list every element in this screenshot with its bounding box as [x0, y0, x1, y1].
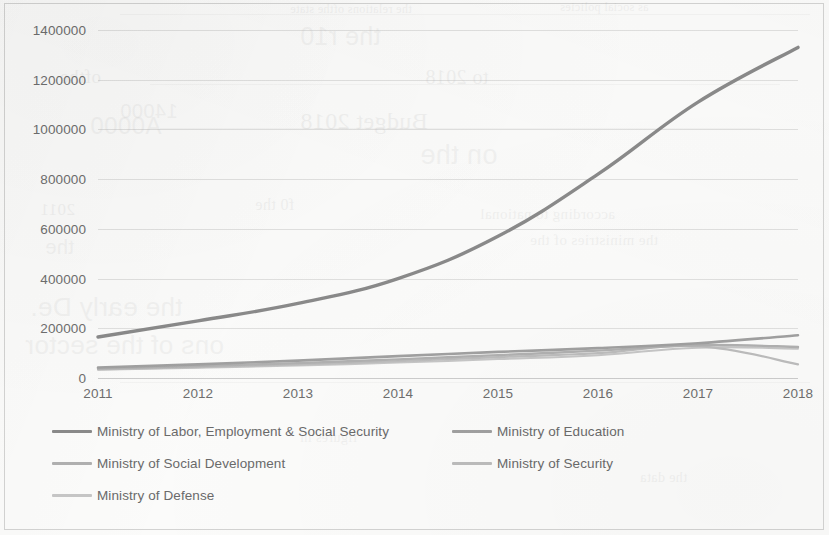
x-axis-tick-label: 2013 — [283, 386, 313, 401]
x-axis-tick-label: 2015 — [483, 386, 513, 401]
legend-color-swatch — [452, 462, 492, 465]
x-axis-labels: 20112012201320142015201620172018 — [98, 386, 798, 408]
legend-color-swatch — [52, 462, 92, 465]
legend-item: Ministry of Labor, Employment & Social S… — [52, 424, 389, 439]
legend-item-label: Ministry of Social Development — [97, 456, 285, 471]
legend-row: Ministry of Social DevelopmentMinistry o… — [52, 456, 752, 488]
chart-legend: Ministry of Labor, Employment & Social S… — [52, 424, 752, 520]
x-axis-tick-label: 2018 — [783, 386, 813, 401]
legend-row: Ministry of Defense — [52, 488, 752, 520]
y-axis-tick-label: 400000 — [40, 271, 86, 286]
legend-color-swatch — [52, 494, 92, 497]
legend-row: Ministry of Labor, Employment & Social S… — [52, 424, 752, 456]
x-axis-tick-label: 2017 — [683, 386, 713, 401]
axis-baseline — [98, 378, 798, 379]
legend-item: Ministry of Social Development — [52, 456, 285, 471]
legend-item: Ministry of Education — [452, 424, 624, 439]
scanned-chart-page: the relations ofthe state as social poli… — [0, 0, 829, 535]
series-line — [98, 47, 798, 337]
series-line — [98, 335, 798, 367]
y-axis-labels: 0200000400000600000800000100000012000001… — [0, 30, 92, 378]
legend-color-swatch — [452, 430, 492, 433]
legend-item: Ministry of Defense — [52, 488, 214, 503]
legend-item-label: Ministry of Defense — [97, 488, 214, 503]
legend-color-swatch — [52, 430, 92, 433]
x-axis-tick-label: 2011 — [83, 386, 112, 401]
legend-item-label: Ministry of Security — [497, 456, 613, 471]
y-axis-tick-label: 1400000 — [33, 23, 86, 38]
y-axis-tick-label: 0 — [78, 371, 86, 386]
x-axis-tick-label: 2014 — [383, 386, 413, 401]
legend-item-label: Ministry of Education — [497, 424, 624, 439]
y-axis-tick-label: 600000 — [40, 221, 86, 236]
x-axis-tick-label: 2016 — [583, 386, 613, 401]
legend-item: Ministry of Security — [452, 456, 613, 471]
y-axis-tick-label: 1000000 — [33, 122, 86, 137]
plot-area — [98, 30, 798, 378]
y-axis-tick-label: 800000 — [40, 172, 86, 187]
y-axis-tick-label: 1200000 — [33, 72, 86, 87]
legend-item-label: Ministry of Labor, Employment & Social S… — [97, 424, 389, 439]
x-axis-tick-label: 2012 — [183, 386, 213, 401]
y-axis-tick-label: 200000 — [40, 321, 86, 336]
series-lines — [98, 30, 798, 378]
